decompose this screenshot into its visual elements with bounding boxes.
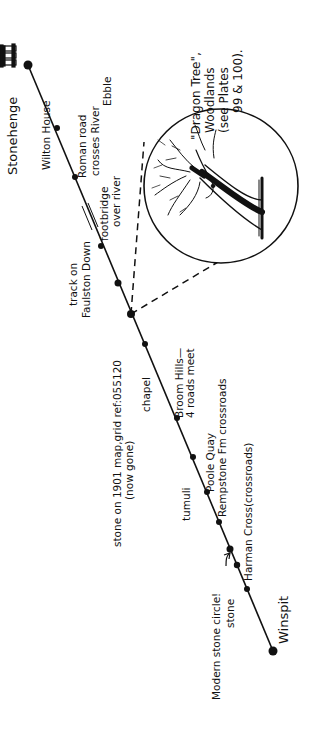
label-rempstone: Rempstone Fm crossroads xyxy=(216,378,228,517)
stop-stonehenge xyxy=(24,61,33,70)
label-footbridge-line1: footbridge xyxy=(98,187,110,241)
label-roman-road-line1: Roman road xyxy=(76,114,88,178)
label-stonehenge: Stonehenge xyxy=(5,97,20,175)
label-broom-hills-line2: 4 roads meet xyxy=(184,348,196,418)
stop-wilton-house xyxy=(54,125,60,131)
stop-tumuli xyxy=(190,454,196,460)
label-winspit: Winspit xyxy=(276,596,291,644)
route-map-diagram: Stonehenge Wilton House Roman road cross… xyxy=(0,0,311,729)
label-footbridge-line2: over river xyxy=(110,175,122,227)
label-dragon-tree-line3: (see Plates xyxy=(217,67,231,133)
label-harman-cross: Harman Cross(crossroads) xyxy=(242,443,254,581)
stone-arrow-icon xyxy=(224,553,230,566)
stop-rempstone xyxy=(216,519,222,525)
label-modern-stone-circle: Modern stone circle! xyxy=(210,593,222,700)
label-chapel: chapel xyxy=(140,377,152,412)
label-tumuli: tumuli xyxy=(180,488,192,522)
label-track-line2: Faulston Down xyxy=(80,241,92,318)
stop-chapel xyxy=(142,341,148,347)
label-wilton-house: Wilton House xyxy=(40,101,52,170)
stop-harman-cross xyxy=(234,562,240,568)
stop-winspit-approach xyxy=(244,586,250,592)
label-roman-road-line3: Ebble xyxy=(101,77,113,106)
label-grid-stone-line1: stone on 1901 map,grid ref:055120 xyxy=(111,360,123,547)
stonehenge-icon xyxy=(0,44,16,67)
label-dragon-tree-line4: 99 & 100). xyxy=(231,49,245,113)
stop-modern-stone-circle xyxy=(227,546,234,553)
label-dragon-tree-line2: Woodlands xyxy=(203,67,217,133)
stop-track-faulston xyxy=(115,280,122,287)
label-stone: stone xyxy=(224,599,236,628)
stop-footbridge xyxy=(98,243,104,249)
label-track-line1: track on xyxy=(67,263,79,306)
label-dragon-tree-line1: "Dragon Tree", xyxy=(189,52,203,140)
label-poole-quay: Poole Quay xyxy=(204,433,216,492)
label-roman-road-line2: crosses River xyxy=(89,106,101,176)
stop-winspit xyxy=(269,647,278,656)
label-grid-stone-line2: (now gone) xyxy=(123,441,135,500)
